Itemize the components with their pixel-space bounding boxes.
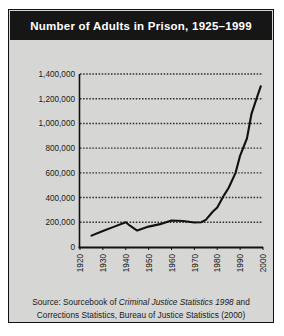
page-title: Number of Adults in Prison, 1925–1999 — [30, 20, 252, 32]
y-tick-label: 1,200,000 — [39, 95, 76, 104]
x-tick-label: 1940 — [122, 254, 131, 273]
x-tick-label: 1950 — [145, 254, 154, 273]
y-axis-tick-labels: 0200,000400,000600,000800,0001,000,0001,… — [39, 70, 76, 252]
y-tick-label: 1,000,000 — [39, 119, 76, 128]
x-tick-label: 1970 — [191, 254, 200, 273]
y-tick-label: 0 — [70, 243, 75, 252]
line-chart: 0200,000400,000600,000800,0001,000,0001,… — [9, 40, 272, 292]
x-tick-label: 2000 — [259, 254, 268, 273]
source-middle: and — [234, 297, 250, 307]
source-italic-title: Criminal Justice Statistics 1998 — [119, 297, 234, 307]
y-tick-label: 200,000 — [45, 218, 75, 227]
x-tick-label: 1920 — [76, 254, 85, 273]
x-axis-tick-labels: 192019301940195019601970198019902000 — [76, 247, 268, 272]
data-series-line — [91, 86, 260, 235]
x-tick-label: 1930 — [99, 254, 108, 273]
chart-title-banner: Number of Adults in Prison, 1925–1999 — [10, 11, 272, 40]
x-tick-label: 1990 — [236, 254, 245, 273]
y-tick-label: 600,000 — [45, 169, 75, 178]
source-line-two: Corrections Statistics, Bureau of Justic… — [37, 310, 245, 320]
plot-area: 0200,000400,000600,000800,0001,000,0001,… — [9, 40, 272, 292]
source-caption: Source: Sourcebook of Criminal Justice S… — [19, 296, 263, 321]
y-tick-label: 400,000 — [45, 194, 75, 203]
gridlines-group — [80, 74, 263, 222]
source-prefix: Source: Sourcebook of — [32, 297, 119, 307]
x-tick-label: 1980 — [213, 254, 222, 273]
figure-container: Number of Adults in Prison, 1925–1999 02… — [8, 9, 274, 323]
y-tick-label: 800,000 — [45, 144, 75, 153]
x-tick-label: 1960 — [168, 254, 177, 273]
y-tick-label: 1,400,000 — [39, 70, 76, 79]
